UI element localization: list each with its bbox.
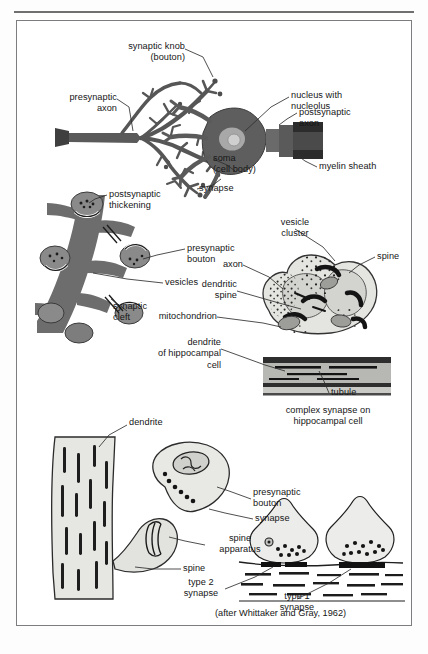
label-soma: soma (cell body) — [213, 153, 293, 176]
label-synapse-panel4: synapse — [255, 513, 321, 524]
label-synaptic-knob: synaptic knob (bouton) — [75, 41, 185, 64]
label-dendrite: dendrite — [129, 417, 195, 428]
header-rule — [14, 11, 414, 13]
caption-complex-synapse: complex synapse on hippocampal cell — [265, 405, 391, 428]
label-presynaptic-bouton-panel4: presynaptic bouton — [253, 487, 339, 510]
label-presynaptic-axon: presynaptic axon — [23, 92, 117, 115]
label-tubule: tubule — [331, 387, 381, 398]
label-spine-panel3: spine — [377, 251, 423, 262]
label-spine-apparatus: spine apparatus — [203, 533, 277, 556]
label-type2-synapse: type 2 synapse — [173, 577, 229, 600]
label-axon: axon — [193, 259, 243, 270]
label-vesicle-cluster: vesicle cluster — [267, 217, 323, 240]
figure-frame: synaptic knob (bouton) presynaptic axon … — [16, 20, 412, 626]
figure-credit: (after Whittaker and Gray, 1962) — [215, 608, 346, 618]
label-synapse-panel1: synapse — [199, 183, 269, 194]
label-myelin-sheath: myelin sheath — [319, 161, 409, 172]
label-postsynaptic-thickening: postsynaptic thickening — [109, 189, 209, 212]
label-mitochondrion: mitochondrion — [127, 311, 217, 322]
page-running-head — [0, 0, 428, 16]
label-spine-panel4: spine — [183, 563, 235, 574]
label-dendrite-hippocampal: dendrite of hippocampal cell — [131, 337, 221, 371]
art-panel-spine — [52, 437, 230, 599]
label-postsynaptic-axon: postsynaptic axon — [299, 107, 399, 130]
art-panel-complex — [263, 255, 391, 396]
page-canvas: synaptic knob (bouton) presynaptic axon … — [0, 0, 428, 654]
label-dendritic-spine: dendritic spine — [173, 279, 237, 302]
